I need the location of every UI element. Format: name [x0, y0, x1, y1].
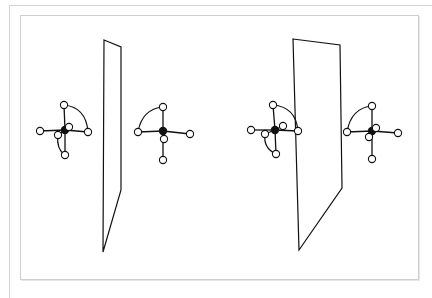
substituent-atom	[186, 130, 193, 137]
substituent-atom	[272, 150, 279, 157]
substituent-atom	[134, 128, 141, 135]
substituent-atom	[247, 126, 254, 133]
substituent-atom	[60, 101, 67, 108]
molecules	[36, 101, 401, 163]
substituent-atom	[269, 101, 276, 108]
central-atom	[159, 127, 167, 135]
chirality-diagram	[0, 0, 432, 298]
substituent-atom	[365, 133, 372, 140]
molecule	[343, 102, 401, 162]
substituent-atom	[61, 151, 68, 158]
bond-arc	[138, 107, 163, 132]
mirror-plane	[293, 39, 342, 250]
central-atom	[271, 126, 279, 134]
substituent-atom	[160, 135, 167, 142]
substituent-atom	[368, 102, 375, 109]
molecule	[247, 101, 301, 157]
substituent-atom	[159, 103, 166, 110]
substituent-atom	[394, 129, 401, 136]
substituent-atom	[372, 124, 379, 131]
mirror-planes	[103, 39, 342, 252]
molecule	[134, 103, 193, 163]
substituent-atom	[84, 128, 91, 135]
substituent-atom	[343, 128, 350, 135]
substituent-atom	[261, 130, 268, 137]
substituent-atom	[54, 131, 61, 138]
substituent-atom	[65, 123, 72, 130]
substituent-atom	[279, 122, 286, 129]
substituent-atom	[159, 156, 166, 163]
mirror-plane	[103, 40, 121, 252]
molecule	[36, 101, 91, 158]
bond-arc	[347, 106, 372, 132]
substituent-atom	[294, 127, 301, 134]
substituent-atom	[368, 155, 375, 162]
substituent-atom	[36, 127, 43, 134]
